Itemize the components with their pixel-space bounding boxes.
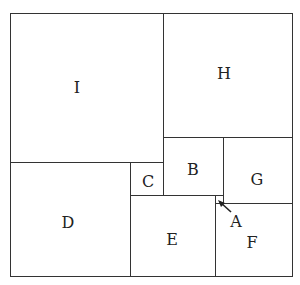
arrow-icon [0,0,300,285]
